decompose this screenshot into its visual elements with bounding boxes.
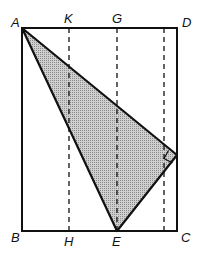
geometry-diagram: A K G D B H E C bbox=[0, 0, 203, 258]
label-h: H bbox=[64, 234, 74, 249]
shaded-triangle bbox=[22, 28, 177, 231]
label-b: B bbox=[11, 230, 20, 245]
label-d: D bbox=[182, 15, 191, 30]
label-k: K bbox=[64, 11, 74, 26]
label-g: G bbox=[112, 11, 122, 26]
label-c: C bbox=[181, 230, 191, 245]
label-a: A bbox=[10, 15, 20, 30]
label-e: E bbox=[112, 234, 121, 249]
